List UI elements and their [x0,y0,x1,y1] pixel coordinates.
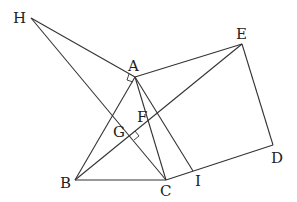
label-A: A [127,57,139,75]
segment-BE [75,44,242,180]
label-I: I [195,172,201,190]
segment-DC [166,145,273,180]
segment-AE [135,44,242,77]
segment-AB [75,77,135,180]
segment-HC [31,18,166,180]
label-B: B [60,174,71,192]
label-F: F [137,108,147,126]
label-G: G [113,123,125,141]
segment-ED [242,44,273,145]
right-angle-mark-G [134,131,139,140]
label-E: E [236,25,247,43]
label-H: H [13,9,26,27]
label-D: D [271,149,283,167]
label-C: C [160,182,171,200]
segment-AC [135,77,166,180]
segment-HA [31,18,135,77]
geometry-diagram: H A E D B C I F G [0,0,297,202]
